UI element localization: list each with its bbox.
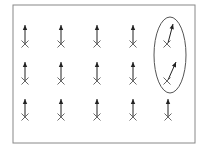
displacement-arrow (168, 62, 176, 80)
arrowhead-icon (95, 25, 99, 30)
particle-x-marker (164, 41, 171, 48)
displacement-arrow (59, 99, 63, 116)
displacement-arrow (23, 25, 27, 43)
displacement-arrow (168, 24, 174, 43)
displacement-arrow (59, 62, 63, 80)
displacement-arrow (23, 62, 27, 80)
arrowhead-icon (95, 99, 99, 104)
displacement-arrow (95, 25, 99, 43)
diagram-frame (13, 5, 195, 143)
particle-x-marker (164, 78, 171, 85)
arrowhead-icon (59, 25, 63, 30)
arrowhead-icon (23, 99, 27, 104)
highlight-ellipse (154, 17, 186, 93)
arrowhead-icon (131, 25, 135, 30)
arrowhead-icon (95, 62, 99, 67)
arrowhead-icon (23, 25, 27, 30)
arrowhead-icon (166, 99, 170, 104)
displacement-arrow (23, 99, 27, 116)
diagram-canvas (0, 0, 205, 150)
displacement-arrow (166, 99, 170, 116)
arrowhead-icon (59, 62, 63, 67)
particle-grid (22, 24, 177, 121)
arrowhead-icon (131, 62, 135, 67)
displacement-arrow (95, 62, 99, 80)
arrowhead-icon (23, 62, 27, 67)
displacement-arrow (131, 62, 135, 80)
arrowhead-icon (131, 99, 135, 104)
arrowhead-icon (59, 99, 63, 104)
displacement-arrow (59, 25, 63, 43)
displacement-arrow (95, 99, 99, 116)
displacement-arrow (131, 99, 135, 116)
displacement-arrow (131, 25, 135, 43)
